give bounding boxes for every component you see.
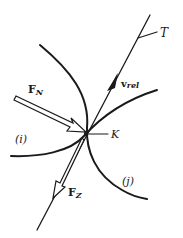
contact-point bbox=[84, 132, 88, 136]
velocity-label: vrel bbox=[120, 78, 139, 90]
normal-force-label: FN bbox=[28, 83, 44, 97]
friction-force-label: FZ bbox=[68, 186, 83, 200]
tangent-label: T bbox=[160, 26, 169, 40]
contact-point-label: K bbox=[110, 128, 120, 141]
normal-force-arrow bbox=[14, 96, 86, 132]
body-i-label: (i) bbox=[15, 133, 27, 146]
contact-diagram: T vrel FN FZ K (i) (j) bbox=[0, 0, 183, 238]
diagram-canvas: T vrel FN FZ K (i) (j) bbox=[0, 0, 183, 238]
body-j-label: (j) bbox=[122, 175, 134, 188]
